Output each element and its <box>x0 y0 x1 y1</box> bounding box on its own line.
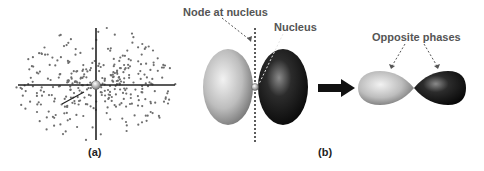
dark-teardrop <box>414 71 466 105</box>
phase-pointer-left <box>392 44 405 66</box>
figure-canvas <box>0 0 484 171</box>
nucleus-annotation: Nucleus <box>274 21 317 33</box>
light-lobe <box>203 49 253 125</box>
phase-pointer-right <box>424 44 437 66</box>
panel-b-label: (b) <box>318 146 332 158</box>
phases-annotation: Opposite phases <box>372 31 461 43</box>
p-orbital-lobes-large <box>203 18 308 142</box>
node-annotation: Node at nucleus <box>183 6 268 18</box>
panel-a-label: (a) <box>88 146 101 158</box>
p-orbital-lobes-small <box>358 44 466 105</box>
light-teardrop <box>358 71 414 105</box>
transition-arrow <box>318 79 355 97</box>
phase-pointer-right-head <box>434 64 440 69</box>
nucleus-b <box>252 84 259 91</box>
dark-lobe <box>258 49 308 125</box>
nucleus-a <box>92 81 101 90</box>
node-pointer-arrowhead <box>247 36 252 42</box>
phase-pointer-left-head <box>389 64 395 69</box>
node-pointer <box>222 18 250 40</box>
